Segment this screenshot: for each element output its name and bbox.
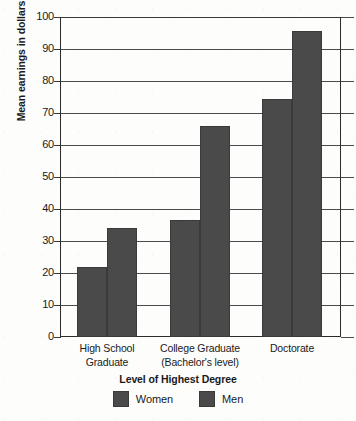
y-tick-mark-right-50 bbox=[341, 177, 354, 178]
chart-legend: WomenMen bbox=[0, 391, 356, 407]
x-tick-label-line: (Bachelor's level) bbox=[130, 356, 270, 370]
legend-swatch-women bbox=[113, 391, 129, 407]
bar-men-group-2 bbox=[200, 126, 230, 337]
bar-men-group-3 bbox=[292, 31, 322, 337]
bar-men-group-1 bbox=[107, 228, 137, 337]
x-axis-title: Level of Highest Degree bbox=[0, 373, 356, 385]
y-tick-label-40: 40 bbox=[14, 203, 54, 214]
x-tick-label-line: Doctorate bbox=[222, 342, 356, 356]
y-tick-mark-right-0 bbox=[341, 337, 354, 338]
legend-item-men: Men bbox=[199, 391, 243, 407]
plot-right-border bbox=[340, 17, 341, 337]
y-tick-label-80: 80 bbox=[14, 75, 54, 86]
y-tick-mark-right-70 bbox=[341, 113, 354, 114]
bar-women-group-3 bbox=[262, 99, 292, 337]
y-tick-mark-right-10 bbox=[341, 305, 354, 306]
legend-label-men: Men bbox=[222, 393, 243, 405]
x-tick-label-group-3: Doctorate bbox=[222, 342, 356, 356]
legend-swatch-men bbox=[199, 391, 215, 407]
y-tick-mark-right-80 bbox=[341, 81, 354, 82]
bar-women-group-2 bbox=[170, 220, 200, 337]
y-tick-label-10: 10 bbox=[14, 299, 54, 310]
y-tick-mark-right-60 bbox=[341, 145, 354, 146]
bar-chart: Mean earnings in dollars 010203040506070… bbox=[0, 0, 356, 421]
y-tick-label-0: 0 bbox=[14, 331, 54, 342]
y-tick-label-30: 30 bbox=[14, 235, 54, 246]
y-tick-label-90: 90 bbox=[14, 43, 54, 54]
y-tick-label-20: 20 bbox=[14, 267, 54, 278]
y-tick-label-50: 50 bbox=[14, 171, 54, 182]
y-tick-mark-right-40 bbox=[341, 209, 354, 210]
bar-women-group-1 bbox=[77, 267, 107, 337]
y-tick-mark-right-20 bbox=[341, 273, 354, 274]
y-tick-mark-right-90 bbox=[341, 49, 354, 50]
y-tick-mark-right-30 bbox=[341, 241, 354, 242]
y-tick-label-70: 70 bbox=[14, 107, 54, 118]
y-tick-label-60: 60 bbox=[14, 139, 54, 150]
y-tick-mark-right-100 bbox=[341, 17, 354, 18]
legend-item-women: Women bbox=[113, 391, 173, 407]
legend-label-women: Women bbox=[136, 393, 173, 405]
y-tick-label-100: 100 bbox=[14, 11, 54, 22]
